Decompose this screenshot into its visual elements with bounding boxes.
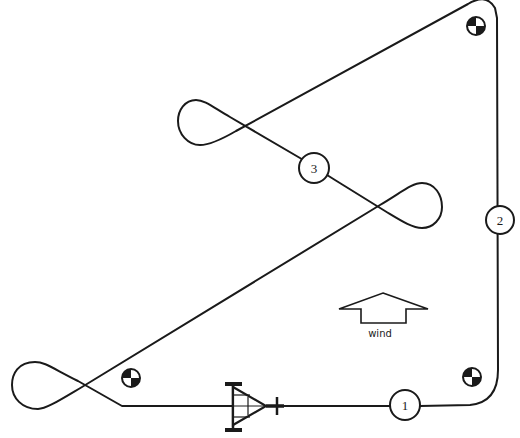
waypoint-3: 3 [299, 153, 329, 183]
pylon-marker-icon [463, 368, 481, 386]
flight-course-diagram: 1 2 3 wind [0, 0, 520, 438]
waypoint-3-label: 3 [311, 161, 318, 176]
wind-indicator: wind [339, 293, 428, 339]
waypoint-1: 1 [390, 390, 420, 420]
wind-label: wind [368, 328, 392, 339]
waypoint-2-label: 2 [497, 213, 504, 228]
waypoint-1-label: 1 [402, 398, 409, 413]
aircraft-icon [225, 384, 284, 430]
waypoint-2: 2 [486, 206, 514, 234]
pylon-marker-icon [122, 369, 140, 387]
wind-arrow-icon [339, 293, 428, 323]
pylon-marker-icon [467, 17, 485, 35]
course-path [12, 0, 498, 409]
